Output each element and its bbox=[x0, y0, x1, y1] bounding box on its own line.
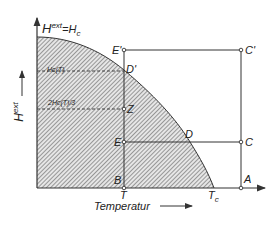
label-hc-t: Hc(T) bbox=[47, 66, 65, 74]
point-a bbox=[239, 186, 243, 190]
point-e-prime bbox=[122, 48, 126, 52]
label-d-prime: D' bbox=[126, 63, 137, 75]
point-e bbox=[122, 140, 126, 144]
label-a: A bbox=[243, 173, 251, 185]
phase-diagram: Hext=Hc Hext Temperatur E' C' D' Z E D C… bbox=[0, 0, 276, 227]
x-axis-label: Temperatur bbox=[94, 200, 151, 212]
point-z bbox=[122, 107, 126, 111]
label-c: C bbox=[245, 136, 253, 148]
label-c-prime: C' bbox=[245, 44, 256, 56]
point-c-prime bbox=[239, 48, 243, 52]
tick-tc: Tc bbox=[208, 189, 219, 204]
label-b: B bbox=[114, 174, 121, 186]
label-e-prime: E' bbox=[112, 44, 122, 56]
label-z: Z bbox=[126, 103, 135, 115]
point-c bbox=[239, 140, 243, 144]
label-d: D bbox=[185, 128, 193, 140]
label-e: E bbox=[114, 136, 122, 148]
curve-label: Hext=Hc bbox=[42, 21, 80, 38]
y-axis-label: Hext bbox=[11, 102, 26, 122]
label-two-thirds-hc-t: 2Hc(T)/3 bbox=[47, 99, 75, 107]
superconducting-region bbox=[37, 37, 214, 188]
